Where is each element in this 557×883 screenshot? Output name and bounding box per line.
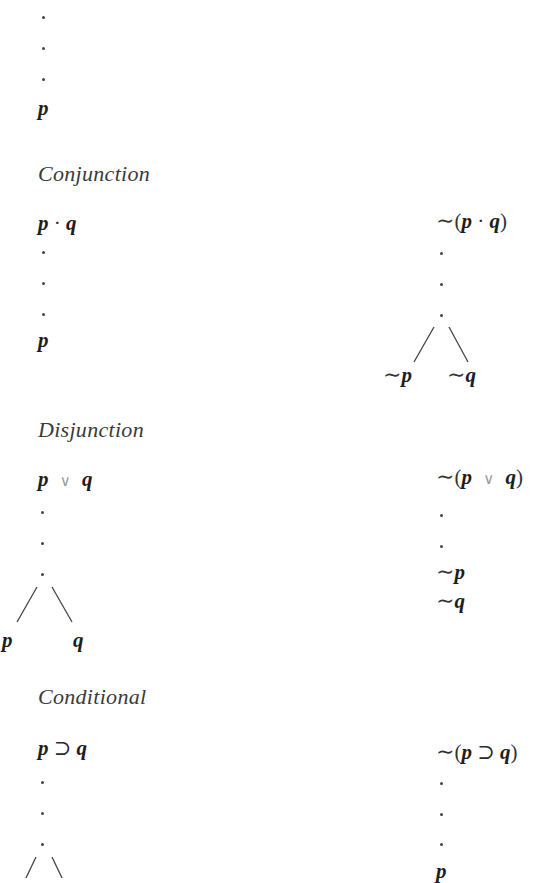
- var-p: p: [461, 465, 472, 489]
- var-p: p: [436, 859, 447, 883]
- ellipsis-dot: [440, 782, 443, 785]
- var-q: q: [505, 465, 516, 489]
- cond-branch-left: [25, 857, 36, 878]
- top-result: p: [38, 97, 49, 119]
- var-p: p: [461, 740, 472, 764]
- branch-not-q: ∼q: [447, 364, 476, 386]
- conjunction-heading: Conjunction: [38, 162, 150, 186]
- result-not-p: ∼p: [436, 561, 465, 583]
- ellipsis-dot: [42, 251, 45, 254]
- var-p: p: [38, 328, 49, 352]
- conditional-heading: Conditional: [38, 685, 146, 709]
- disjunction-formula: p ∨ q: [38, 468, 92, 492]
- negated-disjunction-formula: ∼(p ∨ q): [436, 466, 523, 490]
- ellipsis-dot: [41, 573, 44, 576]
- result-p: p: [436, 860, 447, 882]
- ellipsis-dot: [42, 16, 45, 19]
- negation-symbol: ∼: [383, 362, 401, 387]
- var-p: p: [461, 209, 472, 233]
- horseshoe-operator: ⊃: [477, 740, 495, 764]
- conjunction-result: p: [38, 329, 49, 351]
- negated-conjunction-formula: ∼(p · q): [436, 210, 507, 232]
- ellipsis-dot: [440, 545, 443, 548]
- var-q: q: [465, 363, 476, 387]
- branch-q: q: [73, 629, 84, 651]
- ellipsis-dot: [440, 843, 443, 846]
- result-not-q: ∼q: [436, 590, 465, 612]
- negation-symbol: ∼: [436, 208, 454, 233]
- close-paren: ): [516, 465, 523, 489]
- ellipsis-dot: [41, 843, 44, 846]
- ellipsis-dot: [440, 252, 443, 255]
- var-q: q: [82, 467, 93, 491]
- ellipsis-dot: [41, 542, 44, 545]
- ellipsis-dot: [440, 314, 443, 317]
- var-q: q: [73, 628, 84, 652]
- ellipsis-dot: [440, 283, 443, 286]
- or-operator: ∨: [483, 471, 494, 487]
- ellipsis-dot: [42, 78, 45, 81]
- var-p: p: [38, 467, 49, 491]
- dot-operator: ·: [477, 209, 484, 233]
- var-q: q: [454, 589, 465, 613]
- ellipsis-dot: [440, 514, 443, 517]
- var-q: q: [489, 209, 500, 233]
- negation-symbol: ∼: [447, 362, 465, 387]
- branch-not-p: ∼p: [383, 364, 412, 386]
- close-paren: ): [500, 209, 507, 233]
- negation-symbol: ∼: [436, 464, 454, 489]
- close-paren: ): [511, 740, 518, 764]
- horseshoe-operator: ⊃: [54, 736, 72, 760]
- ellipsis-dot: [41, 812, 44, 815]
- ellipsis-dot: [42, 47, 45, 50]
- ellipsis-dot: [42, 313, 45, 316]
- ellipsis-dot: [42, 282, 45, 285]
- negation-symbol: ∼: [436, 559, 454, 584]
- negation-symbol: ∼: [436, 739, 454, 764]
- var-q: q: [66, 211, 77, 235]
- conditional-formula: p ⊃ q: [38, 737, 87, 759]
- cond-branch-right: [52, 857, 63, 878]
- ellipsis-dot: [41, 781, 44, 784]
- var-q: q: [500, 740, 511, 764]
- ellipsis-dot: [440, 813, 443, 816]
- disj-branch-right: [52, 587, 72, 622]
- var-p: p: [38, 736, 49, 760]
- dot-operator: ·: [54, 211, 61, 235]
- conjunction-formula: p · q: [38, 212, 77, 234]
- branch-p: p: [2, 629, 13, 651]
- var-p: p: [401, 363, 412, 387]
- disjunction-heading: Disjunction: [38, 418, 144, 442]
- negated-conditional-formula: ∼(p ⊃ q): [436, 741, 518, 763]
- disj-branch-left: [17, 587, 37, 622]
- var-q: q: [77, 736, 88, 760]
- var-p: p: [38, 211, 49, 235]
- var-p: p: [2, 628, 13, 652]
- negation-symbol: ∼: [436, 588, 454, 613]
- var-p: p: [454, 560, 465, 584]
- ellipsis-dot: [41, 511, 44, 514]
- or-operator: ∨: [60, 473, 71, 489]
- conj-neg-branch-right: [449, 327, 468, 362]
- conj-neg-branch-left: [414, 327, 434, 362]
- var-p: p: [38, 96, 49, 120]
